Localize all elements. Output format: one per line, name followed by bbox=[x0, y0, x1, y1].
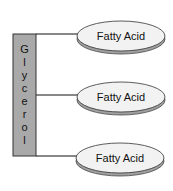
glycerol-letter: c bbox=[22, 82, 28, 94]
glycerol-letter: e bbox=[21, 95, 27, 107]
fatty-acid-label: Fatty Acid bbox=[97, 91, 145, 103]
glycerol-letter: l bbox=[23, 134, 25, 146]
fatty-acid-2: Fatty Acid bbox=[77, 82, 165, 115]
glycerol-letter: G bbox=[20, 43, 29, 55]
glycerol-letter: r bbox=[23, 108, 27, 120]
glycerol-letter: o bbox=[21, 121, 27, 133]
glycerol-letter: l bbox=[23, 56, 25, 68]
fatty-acid-1: Fatty Acid bbox=[77, 21, 165, 54]
fatty-acid-label: Fatty Acid bbox=[96, 152, 144, 164]
glycerol-letter: y bbox=[22, 69, 28, 81]
triglyceride-diagram: G l y c e r o l Fatty Acid Fatty Acid Fa… bbox=[0, 0, 173, 191]
fatty-acid-label: Fatty Acid bbox=[97, 30, 145, 42]
fatty-acid-3: Fatty Acid bbox=[76, 143, 164, 176]
